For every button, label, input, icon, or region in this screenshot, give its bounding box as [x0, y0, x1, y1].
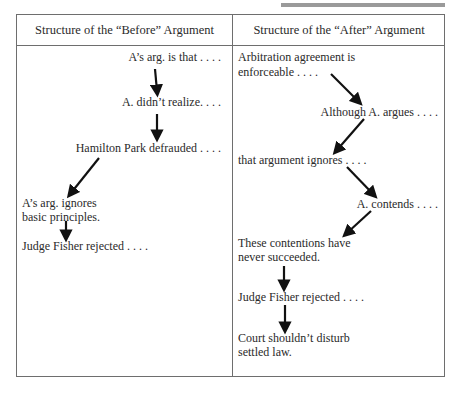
- before-step-2: A. didn’t realize. . . .: [122, 95, 221, 109]
- decorative-top-bar: [281, 3, 445, 7]
- after-step-6: Judge Fisher rejected . . . .: [238, 290, 364, 304]
- before-step-5: Judge Fisher rejected . . . .: [22, 239, 148, 253]
- after-step-5-line2: never succeeded.: [238, 250, 320, 264]
- before-step-4-line1: A’s arg. ignores: [22, 196, 97, 210]
- after-step-4: A. contends . . . .: [357, 197, 438, 211]
- before-step-1: A’s arg. is that . . . .: [129, 50, 221, 64]
- after-step-1-line2: enforceable . . . .: [238, 65, 318, 79]
- after-step-3: that argument ignores . . . .: [238, 153, 366, 167]
- column-divider: [232, 15, 233, 376]
- after-step-5-line1: These contentions have: [238, 236, 351, 250]
- before-step-3: Hamilton Park defrauded . . . .: [76, 141, 221, 155]
- after-step-7-line2: settled law.: [238, 345, 292, 359]
- after-step-1-line1: Arbitration agreement is: [238, 50, 355, 64]
- header-divider: [17, 45, 444, 46]
- after-step-7-line1: Court shouldn’t disturb: [238, 331, 350, 345]
- header-after: Structure of the “After” Argument: [233, 15, 445, 45]
- before-step-4-line2: basic principles.: [22, 210, 100, 224]
- after-step-2: Although A. argues . . . .: [321, 105, 438, 119]
- header-before: Structure of the “Before” Argument: [17, 15, 232, 45]
